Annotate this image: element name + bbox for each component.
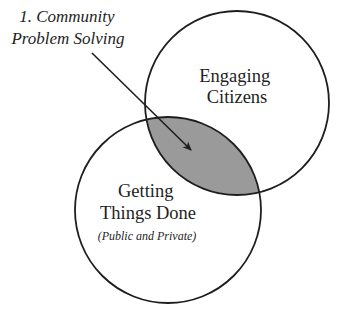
callout-line-2: Problem Solving [10,29,124,48]
engaging-citizens-line-2: Citizens [207,87,268,107]
callout-line-1: 1. Community [19,7,115,26]
callout-arrow [92,53,191,150]
getting-things-done-label: Getting Things Done [100,181,196,223]
venn-diagram: 1. Community Problem Solving Engaging Ci… [0,0,344,312]
getting-things-done-line-1: Getting [118,181,174,201]
engaging-citizens-label: Engaging Citizens [199,66,275,107]
callout-label: 1. Community Problem Solving [10,7,124,48]
getting-things-done-subtitle: (Public and Private) [98,229,197,243]
engaging-citizens-line-1: Engaging [199,66,270,86]
getting-things-done-line-2: Things Done [100,203,196,223]
